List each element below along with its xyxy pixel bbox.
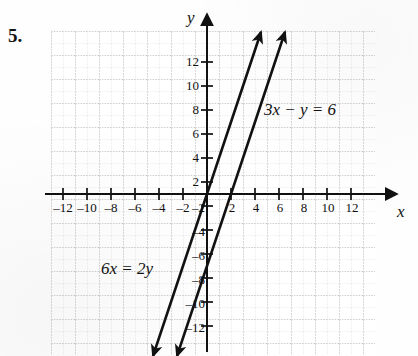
x-tick-label: –12 [53, 200, 73, 216]
x-axis-label: x [397, 202, 405, 222]
y-tick-label: 6 [193, 126, 200, 142]
equation-label-6x-equals-2y: 6x = 2y [101, 259, 153, 279]
y-tick-label: –4 [192, 224, 205, 240]
x-tick-label: 2 [229, 200, 236, 216]
x-tick-label: 4 [253, 200, 260, 216]
y-tick-label: 12 [186, 54, 199, 70]
y-tick-label: –2 [192, 200, 205, 216]
y-tick-label: 8 [193, 102, 200, 118]
x-tick-label: –8 [105, 200, 118, 216]
x-tick-label: 12 [346, 200, 359, 216]
x-tick-label: –6 [129, 200, 142, 216]
x-tick-label: –4 [153, 200, 166, 216]
y-tick-label: –12 [186, 320, 206, 336]
equation-label-3x-minus-y-equals-6: 3x − y = 6 [264, 100, 336, 120]
y-tick-label: 4 [193, 150, 200, 166]
y-tick-label: 10 [186, 78, 199, 94]
y-tick-label: 2 [193, 174, 200, 190]
x-tick-label: 10 [322, 200, 335, 216]
x-tick-label: –2 [177, 200, 190, 216]
x-tick-label: 6 [277, 200, 284, 216]
y-tick-label: –8 [192, 272, 205, 288]
y-tick-label: –6 [192, 248, 205, 264]
y-axis-label: y [187, 8, 195, 28]
x-tick-label: –10 [77, 200, 97, 216]
worksheet-page: 5. [0, 0, 418, 356]
y-tick-label: –10 [186, 296, 206, 312]
x-tick-label: 8 [301, 200, 308, 216]
coordinate-plane-graph [0, 0, 418, 356]
